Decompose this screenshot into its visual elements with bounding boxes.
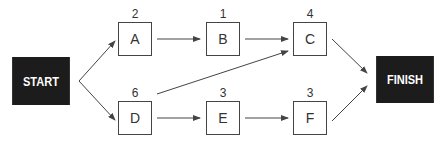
duration-e: 3 [206,86,240,100]
activity-node-c: C [293,22,327,56]
edge-start-d [79,81,115,120]
activity-node-d: D [118,101,152,135]
edge-start-a [79,41,115,81]
activity-node-b: B [206,22,240,56]
finish-node: FINISH [376,56,434,103]
edge-c-finish [332,39,367,73]
duration-b: 1 [206,7,240,21]
activity-node-a: A [118,22,152,56]
duration-c: 4 [293,7,327,21]
duration-d: 6 [118,86,152,100]
activity-node-f: F [293,101,327,135]
start-node: START [12,57,70,105]
edge-f-finish [332,86,367,121]
duration-a: 2 [118,7,152,21]
duration-f: 3 [293,86,327,100]
activity-node-e: E [206,101,240,135]
